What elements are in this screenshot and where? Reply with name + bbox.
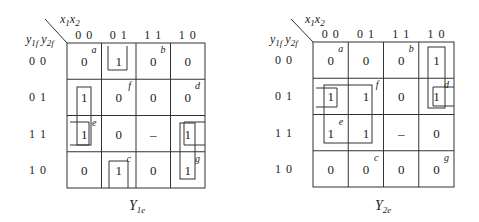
cell-tag-f: f [128,80,132,91]
cell-value: 1 [433,53,440,68]
column-header: 1 1 [392,27,410,41]
cell-value: 0 [327,162,334,177]
cell-value: 1 [363,89,370,104]
cell-value: 0 [116,90,123,105]
cell-value: 0 [398,53,405,68]
cell-tag-e: e [339,116,344,127]
column-header: 1 0 [427,27,445,41]
cell-tag-e: e [92,117,97,128]
cell-value: – [149,127,157,142]
cell-tag-c: c [127,153,132,164]
cell-value: 0 [81,54,88,69]
column-header: 0 1 [357,27,375,41]
column-variable-label: x1x2 [59,12,80,28]
cell-value: 1 [81,127,88,142]
row-header: 1 0 [29,163,47,177]
cell-tag-a: a [338,43,343,54]
row-header: 0 1 [29,90,47,104]
cell-tag-c: c [374,152,379,163]
cell-value: 1 [327,126,334,141]
cell-value: 1 [81,90,88,105]
cell-value: 1 [327,89,334,104]
cell-value: 0 [185,90,192,105]
cell-tag-g: g [195,153,200,164]
karnaugh-maps-figure: x1x2 y1f y2f 0 00 11 11 00 00 11 11 0 01… [0,0,479,222]
cell-tag-f: f [376,79,380,90]
cell-value: 0 [363,162,370,177]
cell-tag-g: g [444,152,449,163]
column-header: 0 0 [75,28,93,42]
cell-value: 0 [150,90,157,105]
cell-value: 0 [81,163,88,178]
cell-value: 1 [116,163,123,178]
column-variable-label: x1x2 [304,12,325,28]
cell-value: 0 [150,163,157,178]
cell-value: 0 [185,54,192,69]
cell-value: – [397,126,405,141]
row-header: 0 0 [29,54,47,68]
cell-value: 0 [398,162,405,177]
cell-tag-b: b [409,43,414,54]
cell-value: 1 [363,126,370,141]
row-header: 0 1 [275,89,293,103]
kmap-y2e: x1x2 y1f y2f 0 00 11 11 00 00 11 11 0 00… [269,12,454,215]
row-header: 1 0 [275,162,293,176]
row-header: 1 1 [29,127,47,141]
row-variable-label: y1f y2f [269,32,299,48]
row-header: 0 0 [275,53,293,67]
cell-tag-a: a [92,44,97,55]
cell-value: 0 [327,53,334,68]
cell-value: 0 [116,127,123,142]
cell-value: 0 [433,126,440,141]
cell-tag-d: d [195,80,201,91]
map-title: Y1e [129,198,145,215]
cell-value: 0 [398,89,405,104]
map-title: Y2e [375,198,391,215]
row-header: 1 1 [275,126,293,140]
row-variable-label: y1f y2f [25,32,55,48]
kmap-y1e: x1x2 y1f y2f 0 00 11 11 00 00 11 11 0 01… [25,12,205,215]
cell-tag-b: b [161,44,166,55]
cell-value: 1 [433,89,440,104]
column-header: 0 0 [322,27,340,41]
column-header: 1 1 [144,28,162,42]
column-header: 1 0 [179,28,197,42]
column-header: 0 1 [110,28,128,42]
cell-value: 1 [116,54,123,69]
cell-value: 1 [185,163,192,178]
cell-value: 1 [185,127,192,142]
cell-value: 0 [150,54,157,69]
cell-value: 0 [363,53,370,68]
cell-value: 0 [433,162,440,177]
